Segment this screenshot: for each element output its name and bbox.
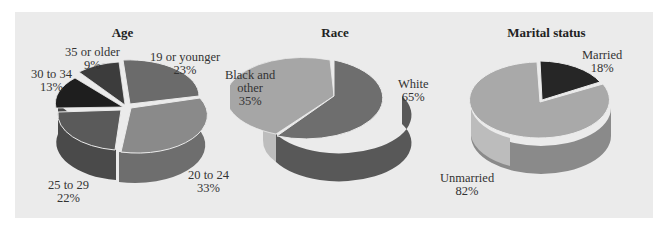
- chart-panel: Age 35 or older 9% 19 or younger 23% 30 …: [15, 12, 653, 218]
- race-label-black-and-other: Black and other 35%: [225, 69, 275, 108]
- age-label-19-or-younger: 19 or younger 23%: [150, 51, 220, 77]
- age-label-20-to-24: 20 to 24 33%: [188, 169, 229, 195]
- marital-label-married: Married 18%: [582, 49, 622, 75]
- race-pie-graphic: [230, 12, 440, 218]
- age-label-35-or-older: 35 or older 9%: [65, 46, 120, 72]
- marital-status-pie-chart: Marital status Married 18% Unmarried 82%: [440, 12, 653, 218]
- age-label-30-to-34: 30 to 34 13%: [31, 68, 72, 94]
- race-label-white: White 65%: [398, 78, 429, 104]
- race-pie-chart: Race Black and other 35% White 65%: [230, 12, 440, 218]
- age-pie-chart: Age 35 or older 9% 19 or younger 23% 30 …: [15, 12, 230, 218]
- marital-label-unmarried: Unmarried 82%: [440, 172, 494, 198]
- age-label-25-to-29: 25 to 29 22%: [48, 179, 89, 205]
